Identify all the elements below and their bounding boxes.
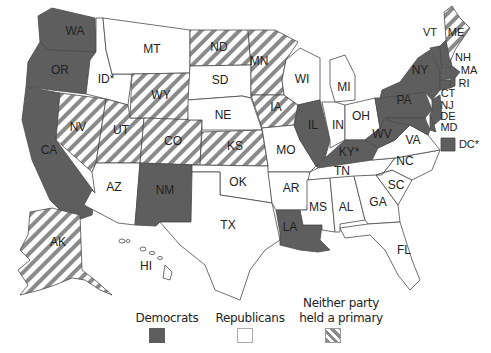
label-NH: NH [455,51,471,63]
label-NE: NE [215,108,232,122]
label-ME: ME [448,26,465,38]
state-AK[interactable] [18,208,112,295]
label-MD: MD [440,121,457,133]
label-WI: WI [295,72,310,86]
state-MI[interactable] [330,55,355,102]
us-primary-map: WA OR CA ID* MT NV UT WY CO AZ NM ND SD … [0,0,491,353]
legend-republicans-swatch [237,328,253,343]
label-MO: MO [276,143,295,157]
legend-neither-label-line2: held a primary [296,311,386,326]
label-DC: DC* [459,138,480,150]
label-AL: AL [339,200,354,214]
label-WV: WV [372,127,391,141]
label-NM: NM [156,183,175,197]
label-OK: OK [229,175,246,189]
label-IN: IN [332,118,344,132]
label-LA: LA [283,220,298,234]
label-ID: ID* [98,72,115,86]
label-WY: WY [151,88,170,102]
label-FL: FL [397,243,411,257]
legend-republicans-label: Republicans [208,311,292,326]
label-AR: AR [283,181,300,195]
label-MI: MI [337,80,350,94]
label-RI: RI [459,77,470,89]
label-CT: CT [441,87,456,99]
label-NV: NV [70,120,87,134]
label-NY: NY [412,63,429,77]
label-CA: CA [41,143,58,157]
label-SD: SD [212,73,229,87]
legend-democrats-swatch [149,328,165,343]
label-NC: NC [396,154,414,168]
label-MT: MT [143,42,161,56]
label-OR: OR [51,63,69,77]
legend-democrats-label: Democrats [122,311,212,326]
label-TX: TX [220,218,235,232]
label-SC: SC [388,178,405,192]
label-KS: KS [227,139,243,153]
label-KY: KY* [339,145,360,159]
label-TN: TN [334,164,350,178]
label-MN: MN [250,54,269,68]
legend-neither-swatch [325,328,341,343]
label-ND: ND [210,40,228,54]
label-VT: VT [423,26,437,38]
label-MA: MA [461,64,478,76]
label-WA: WA [66,24,85,38]
label-PA: PA [396,93,411,107]
label-AZ: AZ [106,180,121,194]
label-HI: HI [140,259,152,273]
label-UT: UT [113,123,130,137]
legend-neither-label-line1: Neither party [296,296,386,311]
label-OH: OH [352,109,370,123]
label-IL: IL [308,118,318,132]
label-IA: IA [270,100,281,114]
label-CO: CO [164,134,182,148]
label-GA: GA [369,195,386,209]
label-MS: MS [309,200,327,214]
state-DC[interactable] [441,138,455,151]
label-VA: VA [405,133,420,147]
label-AK: AK [50,235,66,249]
